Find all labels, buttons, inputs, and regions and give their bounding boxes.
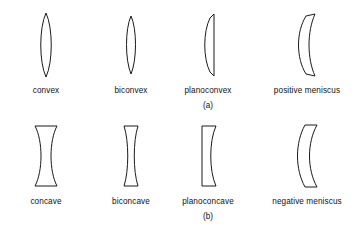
lens-label-negative-meniscus: negative meniscus <box>272 197 342 206</box>
lens-item-convex: convex <box>0 10 92 95</box>
convex-lens-icon <box>26 10 66 80</box>
lens-label-planoconvex: planoconvex <box>184 86 231 95</box>
lens-shapes-figure: convex biconvex planoconvex positive men… <box>0 0 362 233</box>
lens-label-positive-meniscus: positive meniscus <box>274 86 340 95</box>
planoconvex-lens-icon <box>188 10 228 80</box>
biconcave-lens-icon <box>111 121 151 191</box>
lens-item-positive-meniscus: positive meniscus <box>252 10 362 95</box>
planoconcave-lens-icon <box>188 121 228 191</box>
lens-label-biconvex: biconvex <box>114 86 147 95</box>
concave-lens-icon <box>26 121 66 191</box>
lens-label-convex: convex <box>33 86 60 95</box>
lens-label-planoconcave: planoconcave <box>182 197 234 206</box>
lens-item-planoconcave: planoconcave <box>160 121 256 206</box>
panel-caption-a: (a) <box>160 101 256 110</box>
lens-item-planoconvex: planoconvex <box>160 10 256 95</box>
biconvex-lens-icon <box>111 10 151 80</box>
lens-item-concave: concave <box>0 121 92 206</box>
lens-item-negative-meniscus: negative meniscus <box>252 121 362 206</box>
negative-meniscus-lens-icon <box>285 121 329 191</box>
lens-label-biconcave: biconcave <box>112 197 150 206</box>
lens-label-concave: concave <box>30 197 61 206</box>
positive-meniscus-lens-icon <box>285 10 329 80</box>
panel-caption-b: (b) <box>160 212 256 221</box>
